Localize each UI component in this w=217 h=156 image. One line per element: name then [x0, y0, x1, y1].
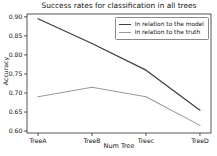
x-axis-label: Num Tree	[27, 142, 211, 150]
legend-item-model: In relation to the model	[119, 21, 204, 28]
legend-label-model: In relation to the model	[135, 21, 204, 28]
y-tick-label: 0.85	[9, 32, 23, 39]
legend-item-truth: In relation to the truth	[119, 29, 204, 36]
series-line-1	[38, 87, 200, 125]
legend-label-truth: In relation to the truth	[135, 29, 201, 36]
y-axis-label: Accuracy	[2, 41, 12, 101]
legend: In relation to the model In relation to …	[115, 17, 209, 40]
y-tick-label: 0.60	[9, 127, 23, 134]
y-tick-label: 0.90	[9, 13, 23, 20]
y-tick-label: 0.65	[9, 108, 23, 115]
figure: Success rates for classification in all …	[0, 0, 217, 156]
model-line-swatch-icon	[119, 24, 131, 25]
truth-line-swatch-icon	[119, 32, 131, 33]
